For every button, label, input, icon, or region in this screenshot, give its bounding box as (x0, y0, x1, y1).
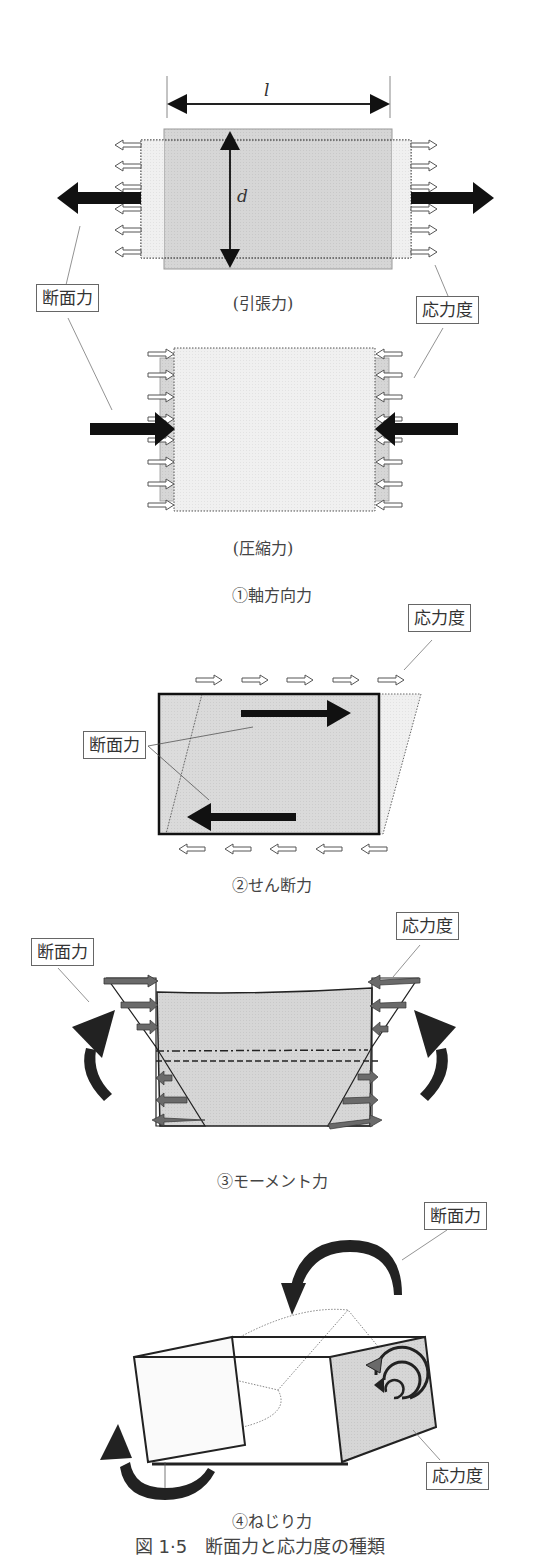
tension-caption: (引張力) (233, 290, 293, 314)
section-force-label-shear: 断面力 (83, 731, 146, 759)
torsion-prism (134, 1337, 436, 1464)
stress-label-moment: 応力度 (396, 912, 459, 940)
compression-caption: (圧縮力) (233, 535, 293, 559)
section-force-label-axial: 断面力 (36, 284, 99, 312)
section-force-label-torsion: 断面力 (424, 1202, 487, 1230)
compression-body (160, 348, 389, 511)
moment-force-panel (58, 945, 456, 1129)
figure-title: 図 1·5 断面力と応力度の種類 (135, 1532, 385, 1558)
axial-force-caption: ①軸方向力 (232, 582, 312, 606)
shear-force-caption: ②せん断力 (232, 872, 312, 896)
depth-symbol: d (237, 186, 248, 206)
torsion-caption: ④ねじり力 (232, 1508, 312, 1532)
tension-body (141, 129, 411, 269)
length-symbol: l (264, 80, 269, 100)
shear-force-panel (148, 640, 432, 854)
torsion-top-arrow (281, 1240, 402, 1315)
shear-bottom-stress-arrows (179, 844, 387, 854)
length-dimension (167, 76, 390, 118)
torsion-panel (100, 1230, 447, 1500)
stress-label-shear: 応力度 (408, 604, 471, 632)
moment-force-caption: ③モーメント力 (217, 1168, 328, 1192)
stress-label-axial: 応力度 (416, 296, 479, 324)
section-force-label-moment: 断面力 (31, 938, 94, 966)
stress-label-torsion: 応力度 (426, 1462, 489, 1490)
diagram-canvas (0, 0, 545, 1560)
shear-top-stress-arrows (196, 675, 404, 685)
